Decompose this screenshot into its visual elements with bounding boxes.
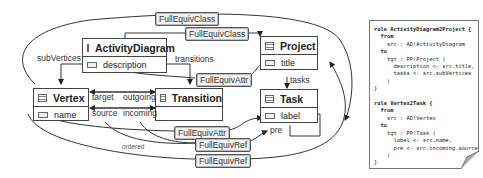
class-vertex[interactable]: Vertex name xyxy=(33,88,89,121)
tag-full-equiv-attr-title[interactable]: FullEquivAttr xyxy=(196,73,252,87)
attribute-label[interactable]: label xyxy=(261,108,317,123)
class-project[interactable]: Project title xyxy=(260,36,318,70)
class-name: Vertex xyxy=(53,92,85,104)
code-line: rule Vertex2Task { xyxy=(374,100,432,106)
class-icon xyxy=(160,94,166,102)
class-transition[interactable]: Transition xyxy=(155,88,223,121)
atl-code-note: rule ActivityDiagram2Project { from src … xyxy=(369,20,479,169)
class-name: Task xyxy=(280,93,303,105)
role-transitions: transitions xyxy=(175,54,214,64)
page-fold-icon xyxy=(461,151,479,169)
class-task[interactable]: Task label xyxy=(260,89,318,123)
attribute-icon xyxy=(265,113,275,119)
model-diagram: ActivityDiagram description Project titl… xyxy=(0,0,360,178)
attribute-label: description xyxy=(103,60,147,70)
attribute-description[interactable]: description xyxy=(83,57,166,72)
attribute-icon xyxy=(265,60,275,66)
code-line: from xyxy=(374,33,393,39)
class-icon xyxy=(87,44,89,52)
class-icon xyxy=(265,95,274,103)
attribute-icon xyxy=(38,112,48,118)
attribute-name[interactable]: name xyxy=(34,107,88,122)
role-outgoing: outgoing xyxy=(123,92,156,102)
class-header: Project xyxy=(261,37,317,55)
code-line: } xyxy=(374,85,377,91)
role-pre: pre xyxy=(270,125,282,135)
role-source: source xyxy=(92,108,118,118)
class-header: Transition xyxy=(156,89,222,107)
attribute-icon xyxy=(87,62,97,68)
class-header: Vertex xyxy=(34,89,88,107)
code-line: src : AD!Vertex xyxy=(374,115,436,121)
class-header: Task xyxy=(261,90,317,108)
code-line: src : AD!ActivityDiagram xyxy=(374,41,465,47)
code-line: tgt : PP!Project ( xyxy=(374,56,445,62)
code-line: pre <- src.incoming.source xyxy=(374,145,478,151)
ordered-label: ordered xyxy=(122,143,144,150)
code-line: tgt : PP!Task ( xyxy=(374,130,436,136)
class-name: Transition xyxy=(172,92,222,104)
attribute-title[interactable]: title xyxy=(261,55,317,70)
role-subvertices: subVertices xyxy=(37,53,81,63)
code-line: label <- src.name, xyxy=(374,137,452,143)
code-line: to xyxy=(374,48,387,54)
role-tasks: tasks xyxy=(290,75,310,85)
code-line: tasks <- src.subVertices xyxy=(374,70,471,76)
code-line: } xyxy=(374,159,377,165)
code-line: to xyxy=(374,122,387,128)
role-target: target xyxy=(92,92,114,102)
code-line: rule ActivityDiagram2Project { xyxy=(374,26,471,32)
class-name: ActivityDiagram xyxy=(95,42,175,54)
code-line: from xyxy=(374,107,393,113)
class-name: Project xyxy=(280,40,316,52)
tag-full-equiv-ref-pre[interactable]: FullEquivRef xyxy=(195,138,251,152)
class-activity-diagram[interactable]: ActivityDiagram description xyxy=(82,38,167,73)
code-line: ) xyxy=(374,152,390,158)
code-line: description <- src.title, xyxy=(374,63,475,69)
attribute-label-text: label xyxy=(281,111,300,121)
tag-full-equiv-class-project[interactable]: FullEquivClass xyxy=(185,27,249,41)
tag-full-equiv-ref-bottom[interactable]: FullEquivRef xyxy=(195,154,251,168)
class-icon xyxy=(265,42,274,50)
attribute-label: name xyxy=(54,110,77,120)
attribute-label: title xyxy=(281,58,295,68)
class-icon xyxy=(38,94,47,102)
code-line: ) xyxy=(374,78,390,84)
tag-full-equiv-class-top[interactable]: FullEquivClass xyxy=(155,12,219,26)
role-incoming: incoming xyxy=(123,108,157,118)
class-header: ActivityDiagram xyxy=(83,39,166,57)
